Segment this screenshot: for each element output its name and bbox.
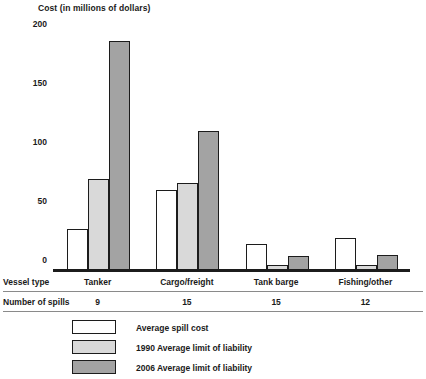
table-cell: 9 [95, 297, 100, 307]
legend-label: Average spill cost [136, 323, 208, 333]
chart-page: Cost (in millions of dollars) 0501001502… [0, 0, 426, 379]
bar [67, 229, 88, 270]
bar [335, 238, 356, 270]
table-row: Number of spills9151512 [3, 292, 423, 312]
table-row-label: Vessel type [3, 277, 49, 287]
table-row: Vessel typeTankerCargo/freightTank barge… [3, 272, 423, 292]
legend-label: 2006 Average limit of liability [136, 363, 252, 373]
data-table: Vessel typeTankerCargo/freightTank barge… [3, 272, 423, 312]
legend-swatch [72, 320, 116, 334]
bar [177, 183, 198, 270]
bar [109, 41, 130, 270]
y-tick-label: 0 [42, 255, 47, 265]
bar [88, 179, 109, 270]
bar [288, 256, 309, 270]
y-tick-label: 100 [33, 137, 47, 147]
plot-area: 050100150200 [53, 26, 410, 272]
bar [246, 244, 267, 270]
y-axis [53, 26, 55, 272]
table-cell: Fishing/other [338, 277, 392, 287]
bar [356, 265, 377, 270]
table-cell: Cargo/freight [160, 277, 213, 287]
table-cell: Tank barge [254, 277, 299, 287]
y-tick-label: 150 [33, 78, 47, 88]
bar [267, 265, 288, 270]
bar [156, 190, 177, 270]
table-cell: 15 [271, 297, 280, 307]
y-tick-label: 50 [38, 196, 47, 206]
bar [198, 131, 219, 270]
y-tick-label: 200 [33, 19, 47, 29]
legend-swatch [72, 360, 116, 374]
chart-title: Cost (in millions of dollars) [38, 3, 150, 13]
bar [377, 255, 398, 270]
table-row-label: Number of spills [3, 297, 70, 307]
legend-label: 1990 Average limit of liability [136, 343, 252, 353]
legend-swatch [72, 340, 116, 354]
table-cell: 15 [182, 297, 191, 307]
table-cell: Tanker [84, 277, 111, 287]
table-cell: 12 [361, 297, 370, 307]
